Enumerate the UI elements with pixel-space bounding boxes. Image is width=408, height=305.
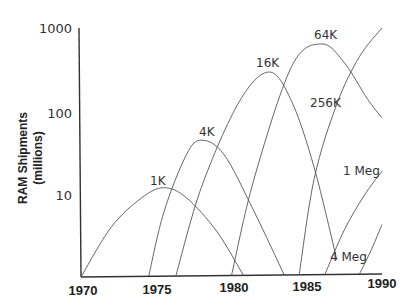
y-axis-label-line1: RAM Shipments <box>16 78 31 238</box>
curve-1k <box>81 188 244 277</box>
x-tick-1985: 1985 <box>287 279 327 294</box>
series-curves <box>81 28 382 277</box>
y-axis <box>79 28 81 277</box>
x-tick-1990: 1990 <box>362 276 402 291</box>
x-tick-1970: 1970 <box>63 283 103 298</box>
curve-64k <box>232 44 383 276</box>
x-tick-1975: 1975 <box>137 282 177 297</box>
x-tick-1980: 1980 <box>214 280 254 295</box>
curve-4k <box>149 140 285 276</box>
label-256k: 256K <box>310 96 341 110</box>
label-16k: 16K <box>256 56 279 70</box>
label-64k: 64K <box>314 28 337 42</box>
y-axis-label: RAM Shipments (millions) <box>16 78 46 238</box>
label-1k: 1K <box>150 174 166 188</box>
y-axis-label-line2: (millions) <box>31 78 46 238</box>
y-tick-100: 100 <box>32 106 72 121</box>
y-tick-1000: 1000 <box>32 21 72 36</box>
label-1meg: 1 Meg <box>343 164 380 178</box>
label-4meg: 4 Meg <box>330 250 367 264</box>
label-4k: 4K <box>199 125 215 139</box>
y-tick-10: 10 <box>32 188 72 203</box>
